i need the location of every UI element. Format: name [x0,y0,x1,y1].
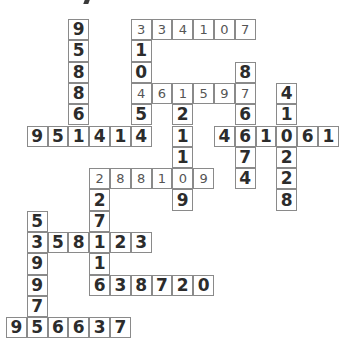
grid-cell[interactable]: 6 [235,126,256,147]
grid-cell[interactable]: 9 [27,275,48,296]
grid-cell[interactable]: 0 [172,168,193,189]
grid-cell[interactable]: 1 [276,104,297,125]
grid-cell[interactable]: 5 [27,317,48,338]
grid-cell[interactable]: 0 [131,62,152,83]
grid-cell[interactable]: 6 [68,104,89,125]
grid-cell[interactable]: 7 [235,19,256,40]
grid-cell[interactable]: 1 [318,126,339,147]
grid-cell[interactable]: 4 [172,19,193,40]
grid-cell[interactable]: 4 [131,83,152,104]
grid-cell[interactable]: 0 [276,126,297,147]
grid-cell[interactable]: 1 [172,126,193,147]
grid-cell[interactable]: 8 [68,62,89,83]
grid-cell[interactable]: 9 [214,83,235,104]
grid-cell[interactable]: 5 [27,211,48,232]
cropped-title-fragment [83,0,89,4]
grid-cell[interactable]: 8 [235,62,256,83]
grid-cell[interactable]: 1 [152,168,173,189]
grid-cell[interactable]: 6 [89,275,110,296]
grid-cell[interactable]: 2 [172,104,193,125]
grid-cell[interactable]: 9 [27,253,48,274]
grid-cell[interactable]: 2 [89,168,110,189]
grid-cell[interactable]: 6 [152,83,173,104]
grid-cell[interactable]: 3 [110,275,131,296]
grid-cell[interactable]: 7 [152,275,173,296]
grid-cell[interactable]: 4 [235,168,256,189]
crossword-board: 9588633410710584615974126951414146106117… [0,0,364,341]
grid-cell[interactable]: 8 [131,275,152,296]
grid-cell[interactable]: 8 [68,83,89,104]
grid-cell[interactable]: 6 [297,126,318,147]
grid-cell[interactable]: 8 [131,168,152,189]
grid-cell[interactable]: 1 [193,19,214,40]
grid-cell[interactable]: 9 [27,126,48,147]
grid-cell[interactable]: 1 [68,126,89,147]
grid-cell[interactable]: 6 [48,317,69,338]
grid-cell[interactable]: 7 [235,83,256,104]
grid-cell[interactable]: 2 [89,189,110,210]
grid-cell[interactable]: 2 [172,275,193,296]
grid-cell[interactable]: 9 [172,189,193,210]
grid-cell[interactable]: 5 [131,104,152,125]
grid-cell[interactable]: 3 [131,19,152,40]
grid-cell[interactable]: 2 [110,232,131,253]
grid-cell[interactable]: 8 [276,189,297,210]
grid-cell[interactable]: 1 [110,126,131,147]
grid-cell[interactable]: 8 [68,232,89,253]
grid-cell[interactable]: 8 [110,168,131,189]
grid-cell[interactable]: 0 [193,275,214,296]
grid-cell[interactable]: 9 [193,168,214,189]
grid-cell[interactable]: 2 [276,147,297,168]
grid-cell[interactable]: 1 [89,253,110,274]
grid-cell[interactable]: 5 [68,40,89,61]
grid-cell[interactable]: 6 [68,317,89,338]
grid-cell[interactable]: 4 [131,126,152,147]
grid-cell[interactable]: 1 [89,232,110,253]
grid-cell[interactable]: 4 [89,126,110,147]
grid-cell[interactable]: 5 [193,83,214,104]
grid-cell[interactable]: 3 [131,232,152,253]
grid-cell[interactable]: 0 [214,19,235,40]
grid-cell[interactable]: 1 [172,83,193,104]
grid-cell[interactable]: 9 [6,317,27,338]
grid-cell[interactable]: 7 [89,211,110,232]
grid-cell[interactable]: 7 [110,317,131,338]
grid-cell[interactable]: 3 [89,317,110,338]
grid-cell[interactable]: 6 [235,104,256,125]
grid-cell[interactable]: 7 [27,296,48,317]
grid-cell[interactable]: 5 [48,126,69,147]
grid-cell[interactable]: 1 [131,40,152,61]
grid-cell[interactable]: 9 [68,19,89,40]
grid-cell[interactable]: 2 [276,168,297,189]
grid-cell[interactable]: 3 [152,19,173,40]
grid-cell[interactable]: 7 [235,147,256,168]
grid-cell[interactable]: 4 [214,126,235,147]
grid-cell[interactable]: 3 [27,232,48,253]
grid-cell[interactable]: 1 [256,126,277,147]
grid-cell[interactable]: 4 [276,83,297,104]
grid-cell[interactable]: 1 [172,147,193,168]
grid-cell[interactable]: 5 [48,232,69,253]
